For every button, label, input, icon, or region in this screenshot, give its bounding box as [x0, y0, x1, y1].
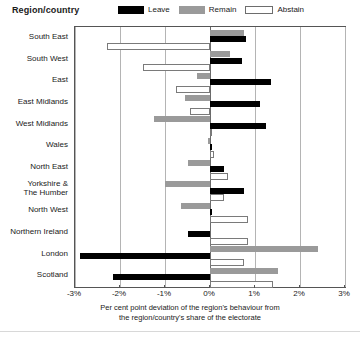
- bar-remain: [208, 138, 210, 144]
- plot-area: [74, 26, 346, 288]
- chart-legend: LeaveRemainAbstain: [118, 5, 304, 14]
- bar-leave: [113, 274, 210, 280]
- bar-abstain: [210, 173, 228, 180]
- chart-header: Region/country LeaveRemainAbstain: [0, 0, 360, 24]
- bar-leave: [188, 231, 211, 237]
- category-label: Wales: [46, 140, 68, 150]
- category-label: South West: [27, 54, 68, 64]
- bar-remain: [165, 181, 210, 187]
- bar-remain: [181, 203, 210, 209]
- bar-remain: [197, 73, 211, 79]
- category-label: Northern Ireland: [10, 227, 68, 237]
- bar-remain: [210, 30, 244, 36]
- gridline-3: [345, 27, 346, 287]
- bar-abstain: [210, 259, 244, 266]
- category-label: Scotland: [37, 270, 68, 280]
- x-axis-label-line1: Per cent point deviation of the region's…: [60, 303, 320, 313]
- bar-remain: [210, 51, 230, 57]
- x-tick-mark: [344, 285, 345, 288]
- category-label: East Midlands: [18, 97, 68, 107]
- bar-remain: [154, 116, 210, 122]
- bar-abstain: [107, 43, 211, 50]
- category-label: North East: [30, 162, 68, 172]
- bar-leave: [210, 144, 212, 150]
- x-tick-label: 1%: [239, 289, 269, 298]
- x-tick-label: -1%: [149, 289, 179, 298]
- bar-abstain: [176, 86, 210, 93]
- bar-abstain: [190, 108, 210, 115]
- bar-leave: [210, 166, 224, 172]
- bar-remain: [210, 246, 318, 252]
- legend-label-leave: Leave: [148, 5, 170, 14]
- x-tick-mark: [254, 285, 255, 288]
- bar-leave: [210, 101, 260, 107]
- outlined-white-swatch: [245, 6, 273, 14]
- bar-rows: [75, 27, 345, 287]
- x-tick-label: -2%: [104, 289, 134, 298]
- bar-abstain: [210, 216, 248, 223]
- x-tick-label: 0%: [194, 289, 224, 298]
- legend-label-remain: Remain: [209, 5, 237, 14]
- x-tick-label: 2%: [284, 289, 314, 298]
- bar-abstain: [143, 64, 211, 71]
- category-label: West Midlands: [16, 119, 68, 129]
- bar-leave: [210, 209, 212, 215]
- x-tick-mark: [299, 285, 300, 288]
- legend-item-leave[interactable]: Leave: [118, 5, 170, 14]
- x-axis-ticks: -3%-2%-1%0%1%2%3%: [74, 289, 346, 301]
- category-label: Yorkshire & The Humber: [24, 179, 68, 198]
- bar-leave: [210, 188, 244, 194]
- category-label: South East: [29, 32, 68, 42]
- filled-black-swatch: [118, 6, 144, 14]
- bar-leave: [210, 123, 266, 129]
- x-tick-mark: [164, 285, 165, 288]
- bar-abstain: [210, 238, 248, 245]
- bar-leave: [210, 58, 242, 64]
- x-tick-mark: [209, 285, 210, 288]
- bar-leave: [210, 36, 246, 42]
- filled-grey-swatch: [179, 6, 205, 14]
- x-tick-label: 3%: [329, 289, 359, 298]
- legend-label-abstain: Abstain: [277, 5, 304, 14]
- bar-leave: [80, 253, 211, 259]
- footer-rule: [0, 331, 360, 332]
- category-label: East: [52, 75, 68, 85]
- x-tick-mark: [119, 285, 120, 288]
- x-axis-label: Per cent point deviation of the region's…: [60, 303, 320, 323]
- bar-abstain: [210, 194, 224, 201]
- bar-leave: [210, 79, 271, 85]
- legend-item-abstain[interactable]: Abstain: [245, 5, 304, 14]
- page-title: Region/country: [12, 5, 79, 15]
- bar-abstain: [210, 151, 214, 158]
- category-label: North West: [28, 205, 68, 215]
- bar-abstain: [210, 281, 273, 288]
- legend-item-remain[interactable]: Remain: [179, 5, 237, 14]
- x-tick-label: -3%: [59, 289, 89, 298]
- category-label: London: [41, 249, 68, 259]
- bar-remain: [185, 95, 210, 101]
- bar-remain: [210, 268, 278, 274]
- x-tick-mark: [74, 285, 75, 288]
- chart-container: Region/country LeaveRemainAbstain South …: [0, 0, 360, 337]
- bar-remain: [188, 160, 211, 166]
- bar-abstain: [210, 129, 212, 136]
- category-axis: South EastSouth WestEastEast MidlandsWes…: [0, 26, 74, 288]
- x-axis-label-line2: the region/country's share of the electo…: [60, 313, 320, 323]
